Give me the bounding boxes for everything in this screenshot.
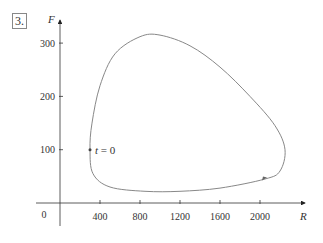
origin-label: 0 (42, 209, 47, 220)
x-tick-label: 1600 (210, 211, 230, 222)
y-tick-label: 100 (40, 144, 55, 155)
trajectory-curve (89, 34, 286, 192)
trajectory-path (90, 34, 285, 192)
x-tick-label: 2000 (250, 211, 270, 222)
y-axis-label: F (47, 13, 55, 25)
x-tick-label: 1200 (170, 211, 190, 222)
x-tick-label: 800 (133, 211, 148, 222)
start-point-label: t = 0 (95, 144, 116, 156)
y-tick-label: 200 (40, 91, 55, 102)
axes (36, 20, 305, 226)
phase-plane-chart: 4008001200160020001002003000RFt = 0 (0, 0, 323, 243)
x-axis-label: R (299, 210, 307, 222)
start-point-marker (89, 148, 92, 151)
x-tick-label: 400 (93, 211, 108, 222)
y-tick-label: 300 (40, 38, 55, 49)
axis-labels: 4008001200160020001002003000RFt = 0 (40, 13, 307, 222)
